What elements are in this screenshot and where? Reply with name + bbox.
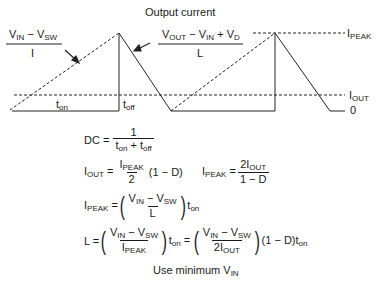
- ipeak-label: IPEAK: [347, 27, 371, 41]
- equation-iout: IOUT = IPEAK2 (1 − D): [84, 158, 183, 185]
- equation-ipeak: IPEAK = ( VIN − VSWL ) ton: [84, 192, 199, 219]
- diagram-title: Output current: [145, 6, 215, 18]
- zero-label: 0: [350, 104, 356, 116]
- fall-slope-denominator: L: [197, 47, 203, 59]
- fall-2: [275, 33, 330, 111]
- note-min-vin: Use minimum VIN: [153, 264, 239, 278]
- rise-slope-denominator: I: [31, 47, 34, 59]
- equation-ipeak-from-iout: IPEAK = 2IOUT1 − D: [202, 158, 269, 185]
- toff-label: toff: [123, 98, 135, 112]
- rise-2: [171, 33, 275, 111]
- fall-slope-numerator: VOUT − VIN + VD: [162, 28, 240, 42]
- rise-slope-numerator: VIN − VSW: [9, 28, 57, 42]
- ton-label: ton: [56, 98, 68, 112]
- equation-dc: DC = 1ton + toff: [84, 126, 154, 153]
- equation-inductance: L = ( VIN − VSWIPEAK ) ton = ( VIN − VSW…: [84, 226, 307, 255]
- iout-label: IOUT: [349, 89, 369, 103]
